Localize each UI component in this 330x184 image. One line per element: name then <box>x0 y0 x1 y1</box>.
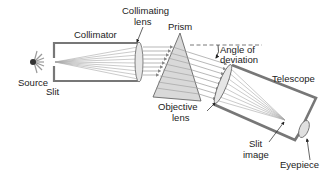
eyepiece-label: Eyepiece <box>280 159 319 170</box>
collimating-lens-label-line1: Collimating <box>122 5 169 16</box>
source-label: Source <box>18 77 48 88</box>
prism-label: Prism <box>168 21 192 32</box>
angle-label-line2: deviation <box>220 54 258 65</box>
slit-label: Slit <box>46 86 60 97</box>
slit-image-label-line1: Slit <box>249 138 263 149</box>
objective-lens-label-line1: Objective <box>158 101 198 112</box>
collimating-lens-label-line2: lens <box>134 16 152 27</box>
objective-lens-label-line2: lens <box>172 112 190 123</box>
slit-image-label-line2: image <box>243 149 269 160</box>
light-source <box>30 51 44 73</box>
spectrometer-diagram: Collimator Collimating lens Prism Angle … <box>0 0 330 184</box>
telescope-label: Telescope <box>272 73 315 84</box>
collimating-lens <box>135 42 143 82</box>
collimator-rays <box>55 47 138 79</box>
diagram-canvas: Collimator Collimating lens Prism Angle … <box>0 0 330 184</box>
objective-lens <box>211 63 234 105</box>
collimator-label: Collimator <box>74 29 117 40</box>
angle-arrow <box>216 45 219 58</box>
